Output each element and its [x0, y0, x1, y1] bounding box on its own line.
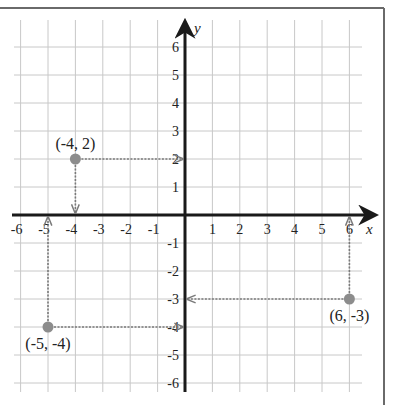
y-tick-label: -2 [167, 264, 179, 279]
x-tick-label: -3 [93, 222, 105, 237]
y-tick-label: -5 [167, 348, 179, 363]
point-label: (-4, 2) [55, 135, 95, 153]
x-tick-label: 2 [236, 222, 243, 237]
x-axis-label: x [365, 221, 373, 237]
x-tick-label: 1 [209, 222, 216, 237]
x-tick-label: -6 [11, 222, 23, 237]
x-tick-label: 5 [319, 222, 326, 237]
data-point [344, 294, 355, 305]
x-tick-label: 3 [264, 222, 271, 237]
coordinate-plane: xy -6-5-4-3-2-1123456654321-1-2-3-4-5-6 … [0, 0, 397, 405]
x-tick-label: -2 [120, 222, 132, 237]
x-tick-label: -4 [66, 222, 78, 237]
point-label: (-5, -4) [25, 335, 70, 353]
y-tick-label: 5 [172, 68, 179, 83]
data-points: (-4, 2)(-5, -4)(6, -3) [25, 135, 369, 353]
y-tick-label: 1 [172, 180, 179, 195]
y-tick-label: -1 [167, 236, 179, 251]
y-tick-label: -3 [167, 292, 179, 307]
x-tick-label: 4 [291, 222, 298, 237]
y-tick-label: 4 [172, 96, 179, 111]
y-tick-label: 6 [172, 40, 179, 55]
data-point [70, 154, 81, 165]
y-tick-label: -6 [167, 376, 179, 391]
point-label: (6, -3) [329, 307, 369, 325]
y-tick-label: 3 [172, 124, 179, 139]
x-tick-label: -1 [148, 222, 160, 237]
data-point [43, 322, 54, 333]
y-axis-label: y [192, 20, 201, 36]
